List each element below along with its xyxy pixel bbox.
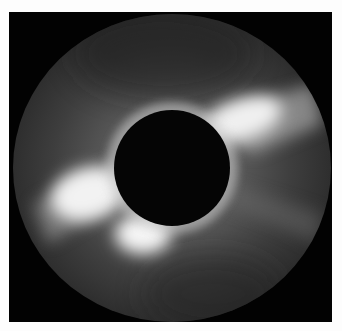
corona-rendering: [13, 14, 331, 322]
corona-image: [13, 14, 331, 322]
occulting-disk: [114, 110, 230, 226]
